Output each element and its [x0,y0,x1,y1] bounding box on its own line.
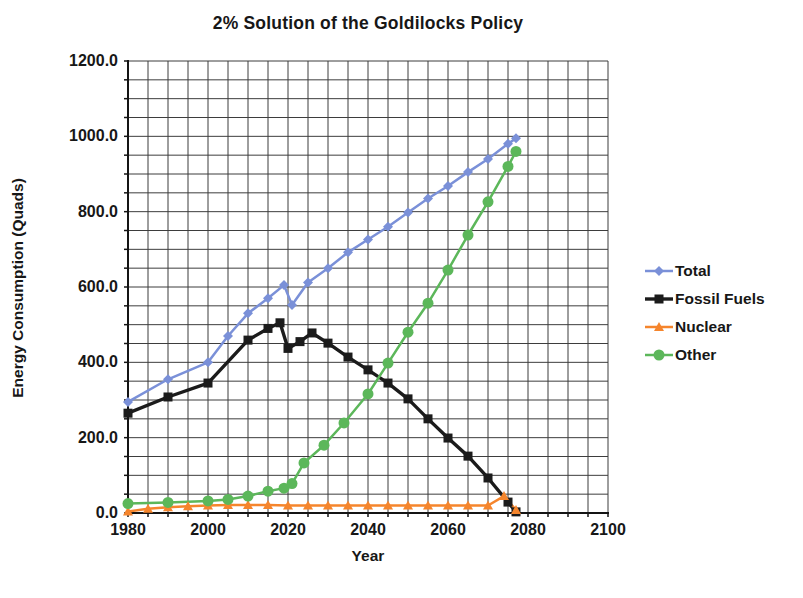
legend-item-total: Total [644,262,765,279]
circle-marker-icon [644,347,674,363]
diamond-marker-icon [644,263,674,279]
legend: TotalFossil FuelsNuclearOther [644,262,765,374]
square-marker-icon [644,291,674,307]
x-tick-label: 2080 [496,521,560,539]
y-tick-label: 1000.0 [28,127,118,145]
legend-item-fossil-fuels: Fossil Fuels [644,290,765,307]
y-tick-label: 200.0 [28,429,118,447]
y-tick-label: 0.0 [28,504,118,522]
chart-figure: 2% Solution of the Goldilocks Policy Ene… [0,0,803,598]
legend-item-nuclear: Nuclear [644,318,765,335]
y-tick-label: 400.0 [28,353,118,371]
legend-label: Nuclear [675,318,732,336]
x-tick-label: 2060 [416,521,480,539]
x-tick-label: 2040 [336,521,400,539]
x-axis-title: Year [128,547,608,565]
y-tick-label: 800.0 [28,203,118,221]
y-tick-label: 1200.0 [28,52,118,70]
x-tick-label: 2020 [256,521,320,539]
legend-item-other: Other [644,346,765,363]
x-tick-label: 2100 [576,521,640,539]
legend-label: Other [675,346,716,364]
y-tick-label: 600.0 [28,278,118,296]
legend-label: Fossil Fuels [675,290,765,308]
x-tick-label: 2000 [176,521,240,539]
legend-label: Total [675,262,711,280]
x-tick-label: 1980 [96,521,160,539]
triangle-marker-icon [644,319,674,335]
